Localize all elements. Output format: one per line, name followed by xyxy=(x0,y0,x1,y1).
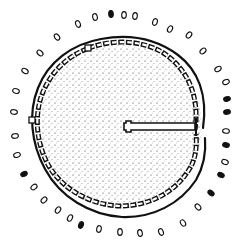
posthole-filled-icon xyxy=(223,96,231,102)
posthole-icon xyxy=(221,159,229,166)
posthole-icon xyxy=(10,109,17,114)
posthole-icon xyxy=(40,196,48,204)
hut-circle-plan xyxy=(0,0,240,244)
posthole-filled-icon xyxy=(207,189,215,197)
posthole-icon xyxy=(66,214,73,222)
posthole-icon xyxy=(36,49,44,57)
posthole-icon xyxy=(54,206,62,214)
posthole-icon xyxy=(96,225,102,233)
posthole-icon xyxy=(122,12,127,19)
posthole-icon xyxy=(152,18,159,26)
posthole-icon xyxy=(185,31,193,39)
posthole-icon xyxy=(12,88,20,94)
posthole-icon xyxy=(92,13,98,21)
posthole-icon xyxy=(179,219,187,227)
posthole-filled-icon xyxy=(20,170,28,177)
posthole-icon xyxy=(13,152,21,158)
posthole-icon xyxy=(222,79,230,86)
posthole-icon xyxy=(75,20,82,28)
posthole-icon xyxy=(194,203,202,211)
square-marker-icon xyxy=(29,117,35,123)
posthole-filled-icon xyxy=(108,10,113,17)
posthole-filled-icon xyxy=(223,109,230,114)
square-marker-icon xyxy=(85,45,91,51)
posthole-icon xyxy=(222,128,229,133)
posthole-icon xyxy=(53,33,61,41)
posthole-filled-icon xyxy=(78,221,85,229)
posthole-icon xyxy=(214,65,222,72)
posthole-icon xyxy=(137,229,143,237)
posthole-icon xyxy=(199,47,207,55)
posthole-icon xyxy=(21,67,29,74)
posthole-icon xyxy=(132,12,137,19)
posthole-icon xyxy=(158,228,165,236)
posthole-icon xyxy=(166,25,173,33)
posthole-icon xyxy=(30,183,38,191)
posthole-filled-icon xyxy=(217,171,225,178)
posthole-icon xyxy=(118,229,123,236)
posthole-filled-icon xyxy=(222,142,230,148)
posthole-icon xyxy=(11,133,18,138)
